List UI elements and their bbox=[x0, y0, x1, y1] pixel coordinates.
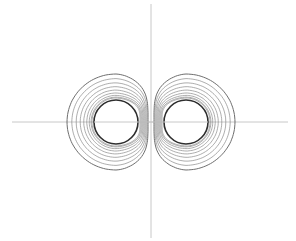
axes bbox=[12, 4, 288, 238]
contour-plot bbox=[0, 0, 296, 241]
